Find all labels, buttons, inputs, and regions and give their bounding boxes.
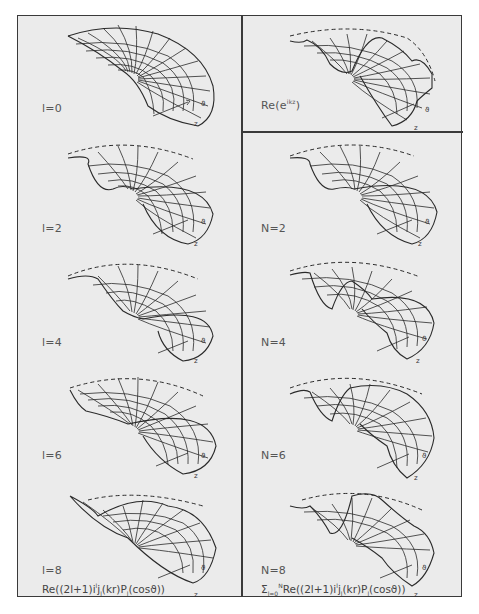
- z-axis-label: z: [416, 357, 420, 365]
- panel-label-n2: N=2: [261, 222, 286, 235]
- theta-axis-label: ϑ: [201, 218, 205, 226]
- caption-text: (cosϑ)): [369, 583, 405, 595]
- caption-text: Re((2l+1)i: [283, 583, 337, 595]
- theta-axis-label: ϑ: [422, 335, 426, 343]
- panel-label-l0: l=0: [42, 102, 62, 115]
- panel-label-l2: l=2: [42, 222, 62, 235]
- panel-label-n8: N=8: [261, 564, 286, 577]
- panel-label-l8: l=8: [42, 564, 62, 577]
- z-axis-label: z: [414, 124, 418, 132]
- theta-axis-label: ϑ: [201, 452, 205, 460]
- label-sup: ikz: [287, 98, 296, 105]
- surface-plot-n8: ϑ z: [242, 478, 464, 598]
- panel-l0: ϑ z l=0: [18, 16, 240, 131]
- surface-plot-l8: ϑ z: [18, 478, 240, 598]
- right-caption-formula: Σl=0NRe((2l+1)iljl(kr)Pl(cosϑ)): [261, 582, 406, 597]
- caption-text: (cosϑ)): [128, 583, 164, 595]
- caption-text: (kr)P: [343, 583, 368, 595]
- panel-label-l4: l=4: [42, 336, 62, 349]
- caption-sigma: Σ: [261, 583, 268, 595]
- theta-axis-label: ϑ: [425, 218, 429, 226]
- z-axis-label: z: [194, 120, 198, 128]
- panel-label-plane-wave: Re(eikz): [261, 98, 300, 112]
- panel-n4: ϑ z N=4: [242, 251, 464, 366]
- panel-l4: ϑ z l=4: [18, 251, 240, 366]
- panel-n6: ϑ z N=6: [242, 366, 464, 481]
- caption-text: Re((2l+1)i: [42, 583, 96, 595]
- z-axis-label: z: [414, 591, 418, 599]
- panel-l8: ϑ z l=8 Re((2l+1)iljl(kr)Pl(cosϑ)): [18, 478, 240, 598]
- theta-axis-label: ϑ: [201, 100, 205, 108]
- z-axis-label: z: [194, 240, 198, 248]
- left-caption-formula: Re((2l+1)iljl(kr)Pl(cosϑ)): [42, 582, 165, 597]
- surface-plot-n6: ϑ z: [242, 366, 464, 481]
- z-axis-label: z: [194, 357, 198, 365]
- theta-axis-label: ϑ: [201, 564, 205, 572]
- z-axis-label: z: [194, 591, 198, 599]
- theta-axis-label: ϑ: [201, 337, 205, 345]
- panel-plane-wave: ϑ z Re(eikz): [242, 16, 464, 131]
- panel-n8: ϑ z N=8 Σl=0NRe((2l+1)iljl(kr)Pl(cosϑ)): [242, 478, 464, 598]
- label-text: ): [296, 99, 301, 112]
- caption-text: (kr)P: [102, 583, 127, 595]
- panel-l2: ϑ z l=2: [18, 134, 240, 249]
- panel-label-n4: N=4: [261, 336, 286, 349]
- label-text: Re(e: [261, 99, 287, 112]
- panel-label-n6: N=6: [261, 449, 286, 462]
- panel-l6: ϑ z l=6: [18, 366, 240, 481]
- z-axis-label: z: [418, 240, 422, 248]
- panel-label-l6: l=6: [42, 449, 62, 462]
- theta-axis-label: ϑ: [422, 452, 426, 460]
- caption-sub: l=0: [268, 590, 279, 597]
- surface-plot-plane-wave: ϑ z: [242, 16, 464, 131]
- theta-axis-label: ϑ: [422, 564, 426, 572]
- surface-plot-l6: ϑ z: [18, 366, 240, 481]
- theta-axis-label: ϑ: [425, 106, 429, 114]
- panel-n2: ϑ z N=2: [242, 134, 464, 249]
- right-top-divider: [242, 131, 463, 133]
- figure-frame: ϑ z l=0 ϑ z l=2 ϑ z l=4: [17, 15, 462, 597]
